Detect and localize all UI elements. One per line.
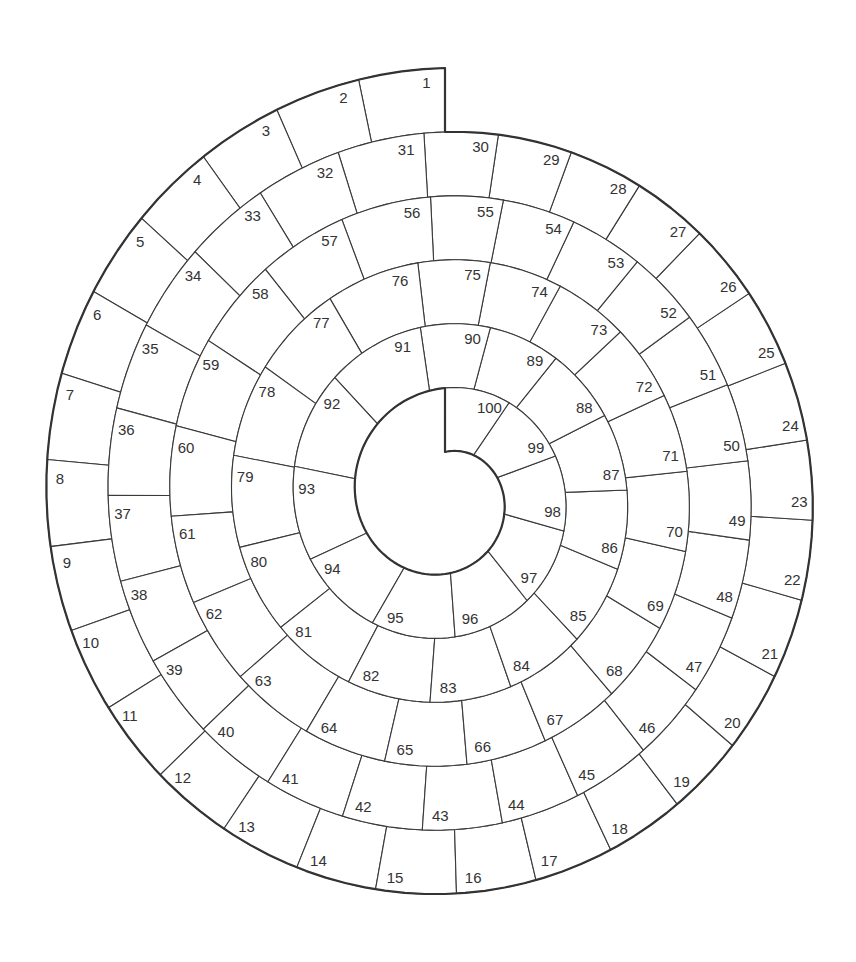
square-number: 94 (324, 560, 341, 577)
square-number: 93 (298, 480, 315, 497)
square-number: 49 (729, 512, 746, 529)
square-number: 10 (82, 634, 99, 651)
square-number: 83 (440, 679, 457, 696)
square-number: 66 (474, 738, 491, 755)
square-number: 79 (237, 468, 254, 485)
square-number: 47 (686, 658, 703, 675)
square-number: 67 (547, 711, 564, 728)
square-number: 64 (321, 719, 338, 736)
square-number: 6 (93, 306, 101, 323)
square-number: 50 (723, 437, 740, 454)
square-number: 45 (578, 766, 595, 783)
square-number: 3 (262, 122, 270, 139)
square-number: 38 (131, 586, 148, 603)
square-number: 35 (142, 340, 159, 357)
square-number: 46 (639, 719, 656, 736)
square-number: 14 (310, 852, 327, 869)
square-number: 55 (477, 203, 494, 220)
square-number: 17 (541, 852, 558, 869)
square-number: 95 (387, 609, 404, 626)
square-number: 62 (206, 605, 223, 622)
square-number: 1 (422, 74, 430, 91)
square-number: 11 (122, 707, 138, 724)
square-number: 99 (528, 439, 545, 456)
square-number: 86 (601, 539, 618, 556)
square-number: 89 (527, 352, 544, 369)
spiral-game-board: 1234567891011121314151617181920212223242… (0, 0, 856, 962)
square-number: 76 (392, 272, 409, 289)
square-number: 54 (545, 220, 562, 237)
square-number: 21 (761, 645, 778, 662)
square-number: 29 (543, 151, 560, 168)
square-number: 70 (666, 523, 683, 540)
square-number: 88 (576, 399, 593, 416)
square-number: 72 (636, 378, 653, 395)
square-number: 52 (660, 304, 677, 321)
square-number: 100 (477, 399, 502, 416)
square-number: 8 (56, 470, 64, 487)
square-number: 77 (313, 314, 330, 331)
square-number: 5 (136, 233, 144, 250)
square-number: 65 (397, 741, 414, 758)
square-number: 73 (591, 321, 608, 338)
square-number: 57 (321, 232, 338, 249)
square-number: 63 (255, 672, 272, 689)
square-number: 15 (387, 869, 404, 886)
square-number: 91 (394, 338, 411, 355)
square-number: 39 (166, 661, 183, 678)
square-number: 41 (282, 770, 299, 787)
square-number: 26 (720, 278, 737, 295)
square-number: 56 (404, 204, 421, 221)
square-number: 25 (758, 344, 775, 361)
square-number: 33 (244, 207, 261, 224)
square-number: 78 (259, 383, 276, 400)
board-squares (46, 68, 813, 894)
square-number: 98 (544, 503, 561, 520)
square-number: 75 (464, 266, 481, 283)
board-square (359, 68, 445, 142)
square-number: 87 (603, 466, 620, 483)
square-number: 24 (782, 417, 799, 434)
square-number: 59 (203, 356, 220, 373)
square-number: 82 (363, 667, 380, 684)
square-number: 30 (472, 138, 489, 155)
square-number: 74 (531, 283, 548, 300)
square-number: 97 (521, 569, 538, 586)
square-number: 48 (716, 588, 733, 605)
square-number: 40 (218, 723, 235, 740)
square-number: 27 (670, 223, 687, 240)
square-number: 20 (724, 714, 741, 731)
square-number: 81 (295, 623, 312, 640)
square-number: 37 (114, 505, 131, 522)
square-number: 13 (238, 818, 255, 835)
square-number: 32 (317, 164, 334, 181)
square-number: 96 (462, 610, 479, 627)
square-number: 61 (179, 525, 196, 542)
square-number: 31 (398, 141, 415, 158)
square-number: 58 (252, 285, 269, 302)
square-number: 7 (66, 386, 74, 403)
square-number: 69 (647, 597, 664, 614)
square-number: 68 (606, 662, 623, 679)
square-number: 60 (178, 439, 195, 456)
square-number: 16 (465, 869, 482, 886)
square-number: 53 (608, 254, 625, 271)
square-number: 51 (700, 366, 717, 383)
square-number: 9 (63, 554, 71, 571)
square-number: 19 (673, 773, 690, 790)
square-number: 44 (508, 796, 525, 813)
square-number: 71 (662, 447, 679, 464)
square-number: 34 (185, 267, 202, 284)
square-number: 43 (432, 807, 449, 824)
square-number: 80 (250, 553, 267, 570)
square-number: 92 (324, 395, 341, 412)
square-number: 4 (193, 171, 201, 188)
square-number: 12 (174, 769, 191, 786)
square-number: 85 (570, 607, 587, 624)
square-number: 90 (464, 330, 481, 347)
square-number: 2 (339, 89, 347, 106)
square-number: 36 (118, 421, 135, 438)
square-number: 42 (355, 798, 372, 815)
square-number: 23 (791, 493, 808, 510)
square-number: 18 (611, 820, 628, 837)
